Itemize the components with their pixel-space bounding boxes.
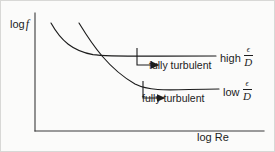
diameter-symbol: D <box>244 56 252 68</box>
fully-turbulent-label-low: fully turbulent <box>142 92 204 104</box>
low-roughness-prefix: low <box>223 86 240 98</box>
diameter-symbol: D <box>243 90 251 102</box>
fully-turbulent-label-high: fully turbulent <box>149 59 211 71</box>
roughness-ratio-fraction-high: ϵ D <box>244 46 253 68</box>
high-roughness-prefix: high <box>220 52 241 64</box>
curve-high-roughness <box>51 23 216 56</box>
y-axis-label-prefix: log <box>10 18 25 30</box>
y-axis-label-symbol: f <box>25 17 29 31</box>
plot-canvas <box>1 1 275 152</box>
roughness-ratio-fraction-low: ϵ D <box>243 80 252 102</box>
epsilon-symbol: ϵ <box>245 46 252 55</box>
epsilon-symbol: ϵ <box>243 80 250 89</box>
y-axis-label: logf <box>10 17 29 32</box>
low-roughness-label: low ϵ D <box>223 81 252 103</box>
high-roughness-label: high ϵ D <box>220 47 253 69</box>
x-axis-label: log Re <box>197 131 229 143</box>
friction-factor-figure: logf log Re fully turbulent fully turbul… <box>0 0 275 152</box>
